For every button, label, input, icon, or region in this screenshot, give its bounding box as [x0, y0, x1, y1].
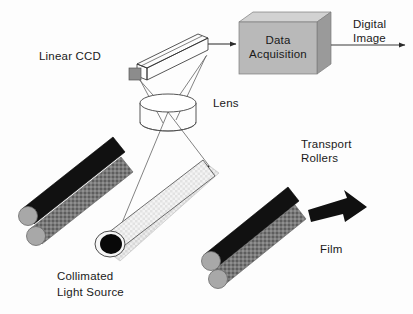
roller-cap-upper-right — [202, 252, 221, 271]
digital-image-label-line2: Image — [353, 32, 386, 44]
daq-label-line2: Acquisition — [249, 48, 307, 60]
roller-cap-lower-right — [209, 270, 228, 289]
lens-label: Lens — [213, 97, 239, 109]
digital-image-label-line1: Digital — [353, 18, 386, 30]
ccd-sensor-face-icon — [129, 68, 141, 80]
transport-rollers-label-line2: Rollers — [301, 152, 338, 164]
roller-cap-lower-left — [27, 227, 46, 246]
roller-cap-upper-left — [19, 207, 38, 226]
data-acquisition-box-icon: Data Acquisition — [239, 12, 331, 74]
collimated-light-label-line2: Light Source — [57, 286, 124, 298]
scanner-schematic-svg: Data Acquisition Digital Image — [0, 0, 413, 314]
film-label: Film — [320, 243, 343, 255]
collimated-light-label-line1: Collimated — [57, 270, 113, 282]
lamp-face-icon — [100, 234, 122, 254]
linear-ccd-label: Linear CCD — [39, 50, 101, 62]
transport-rollers-label-line1: Transport — [301, 138, 352, 150]
daq-label-line1: Data — [265, 34, 290, 46]
diagram-canvas: Data Acquisition Digital Image — [0, 0, 413, 314]
